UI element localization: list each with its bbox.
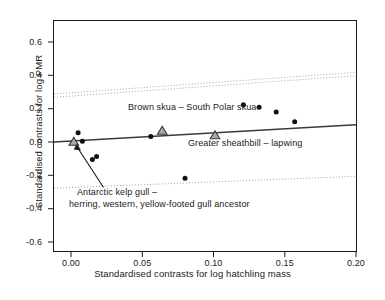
- y-tick-label: 0.2: [8, 103, 42, 113]
- y-tick-label: 0.6: [8, 37, 42, 47]
- data-point: [90, 157, 95, 162]
- data-point: [76, 130, 81, 135]
- y-tick-label: 0.0: [8, 137, 42, 147]
- y-tick-label: -0.6: [8, 237, 42, 247]
- annotation-kelp-gull-line2: herring, western, yellow-footed gull anc…: [69, 199, 250, 211]
- data-point: [292, 119, 297, 124]
- y-tick-label: 0.4: [8, 70, 42, 80]
- scatter-plot-figure: Standardised contrasts for log PMR Stand…: [0, 0, 385, 300]
- y-tick-label: -0.4: [8, 203, 42, 213]
- data-point: [274, 110, 279, 115]
- x-tick-label: 0.20: [336, 258, 376, 268]
- y-axis-ticks: [48, 42, 54, 242]
- y-axis-label: Standardised contrasts for log PMR: [33, 32, 44, 232]
- data-point: [183, 176, 188, 181]
- data-point: [148, 134, 153, 139]
- x-axis-label: Standardised contrasts for log hatchling…: [0, 268, 385, 279]
- x-tick-label: 0.05: [122, 258, 162, 268]
- annotation-kelp-gull-line1: Antarctic kelp gull –: [77, 187, 250, 199]
- y-tick-label: -0.2: [8, 170, 42, 180]
- data-point: [80, 139, 85, 144]
- plot-frame: [54, 21, 357, 252]
- plot-canvas: [0, 0, 385, 300]
- x-tick-label: 0.15: [265, 258, 305, 268]
- x-tick-label: 0.10: [194, 258, 234, 268]
- annotation-brown-skua: Brown skua – South Polar skua: [128, 102, 256, 112]
- data-point: [94, 154, 99, 159]
- annotation-greater-sheathbill: Greater sheathbill – lapwing: [188, 138, 302, 148]
- x-tick-label: 0.00: [51, 258, 91, 268]
- annotation-kelp-gull: Antarctic kelp gull – herring, western, …: [77, 187, 250, 210]
- data-point: [257, 105, 262, 110]
- x-axis-ticks: [71, 252, 356, 258]
